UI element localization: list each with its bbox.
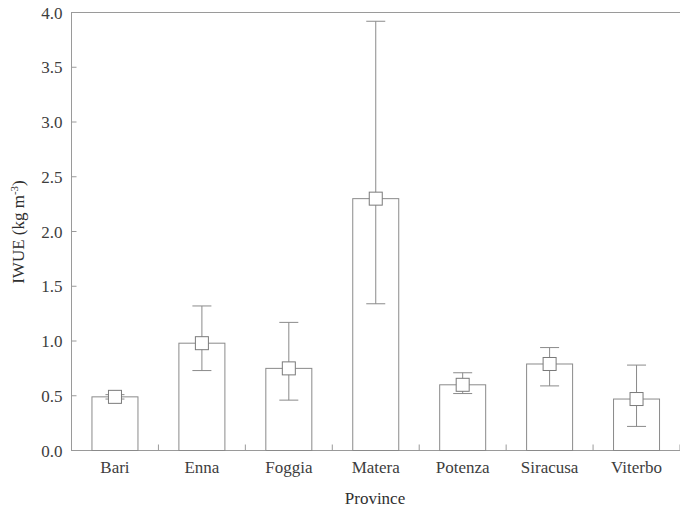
x-axis-title: Province bbox=[345, 489, 405, 508]
x-label-siracusa: Siracusa bbox=[521, 458, 579, 477]
y-axis-title-suffix: ) bbox=[9, 180, 28, 186]
y-axis-tick-labels: 0.00.51.01.52.02.53.03.54.0 bbox=[41, 4, 62, 461]
y-axis-title: IWUE (kg m-3) bbox=[8, 180, 28, 284]
x-label-enna: Enna bbox=[184, 458, 219, 477]
y-tick-label: 1.5 bbox=[41, 277, 62, 296]
iwue-by-province-bar-chart: 0.00.51.01.52.02.53.03.54.0 BariEnnaFogg… bbox=[0, 0, 680, 514]
bar-potenza bbox=[440, 385, 486, 451]
x-axis-category-labels: BariEnnaFoggiaMateraPotenzaSiracusaViter… bbox=[100, 458, 662, 477]
y-tick-label: 1.0 bbox=[41, 332, 62, 351]
marker-viterbo bbox=[630, 393, 643, 406]
x-label-potenza: Potenza bbox=[436, 458, 490, 477]
y-tick-label: 2.0 bbox=[41, 223, 62, 242]
marker-bari bbox=[108, 390, 121, 403]
x-label-viterbo: Viterbo bbox=[611, 458, 662, 477]
y-tick-label: 2.5 bbox=[41, 168, 62, 187]
marker-matera bbox=[369, 192, 382, 205]
x-label-bari: Bari bbox=[100, 458, 130, 477]
marker-foggia bbox=[282, 362, 295, 375]
y-tick-label: 4.0 bbox=[41, 4, 62, 23]
y-axis-title-text: IWUE (kg m bbox=[9, 195, 28, 284]
bar-bari bbox=[92, 397, 138, 451]
marker-siracusa bbox=[543, 357, 556, 370]
y-tick-label: 0.0 bbox=[41, 442, 62, 461]
x-label-matera: Matera bbox=[352, 458, 401, 477]
y-axis-ticks bbox=[72, 13, 77, 451]
y-tick-label: 3.5 bbox=[41, 58, 62, 77]
x-label-foggia: Foggia bbox=[265, 458, 313, 477]
marker-enna bbox=[195, 337, 208, 350]
marker-potenza bbox=[456, 378, 469, 391]
y-tick-label: 0.5 bbox=[41, 387, 62, 406]
y-tick-label: 3.0 bbox=[41, 113, 62, 132]
figure-container: 0.00.51.01.52.02.53.03.54.0 BariEnnaFogg… bbox=[0, 0, 680, 514]
svg-text:IWUE (kg m-3): IWUE (kg m-3) bbox=[8, 180, 28, 284]
